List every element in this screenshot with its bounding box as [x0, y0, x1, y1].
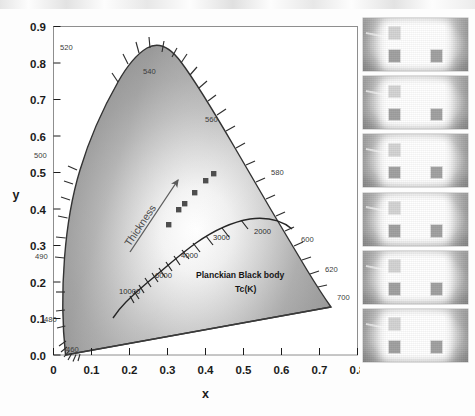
- led-contact-right: [430, 340, 444, 354]
- data-point: [176, 207, 181, 212]
- y-tick-2: 0.2: [30, 277, 46, 289]
- y-tick-labels: 0.0 0.1 0.2 0.3 0.4 0.5 0.6 0.7 0.8 0.9: [30, 21, 47, 362]
- x-tick-2: 0.2: [122, 364, 138, 376]
- temp-label-6000: 6000: [155, 271, 172, 280]
- led-photo-strip: [363, 18, 471, 362]
- wl-label-620: 620: [325, 265, 338, 274]
- led-photo-6: [363, 309, 468, 362]
- led-contact-left: [388, 166, 402, 180]
- wl-label-580: 580: [271, 168, 284, 177]
- data-point: [203, 178, 208, 183]
- y-tick-3: 0.3: [30, 240, 46, 252]
- wl-label-560: 560: [205, 115, 218, 124]
- wl-label-460: 460: [66, 345, 79, 354]
- led-contact-top-left: [388, 26, 402, 40]
- chromaticity-chart-panel: 520 540 560 580 600 620 700 500 490 480 …: [0, 0, 360, 416]
- wl-label-600: 600: [301, 235, 314, 244]
- led-contact-right: [430, 282, 444, 296]
- led-contact-top-left: [388, 143, 402, 157]
- temp-label-4000: 4000: [181, 251, 198, 260]
- data-point: [192, 190, 197, 195]
- led-contact-right: [430, 49, 444, 63]
- led-contact-top-left: [388, 85, 402, 99]
- led-photo-2: [363, 76, 468, 129]
- led-contact-right: [430, 224, 444, 238]
- y-tick-6: 0.6: [30, 131, 46, 143]
- planckian-caption-line1: Planckian Black body: [196, 270, 285, 280]
- y-tick-4: 0.4: [30, 204, 47, 216]
- x-tick-labels: 0 0.1 0.2 0.3 0.4 0.5 0.6 0.7 0.8: [50, 364, 360, 376]
- led-photo-3: [363, 134, 468, 187]
- led-contact-left: [388, 224, 402, 238]
- x-tick-8: 0.8: [350, 364, 361, 376]
- x-axis-title: x: [202, 387, 209, 401]
- led-photo-5: [363, 251, 468, 304]
- x-tick-3: 0.3: [160, 364, 176, 376]
- wl-label-520: 520: [60, 43, 73, 52]
- led-photo-4: [363, 193, 468, 246]
- led-contact-top-left: [388, 259, 402, 273]
- data-point: [211, 171, 216, 176]
- y-tick-0: 0.0: [30, 350, 46, 362]
- led-photo-1: [363, 18, 468, 71]
- wl-label-540: 540: [143, 67, 156, 76]
- x-tick-6: 0.6: [274, 364, 290, 376]
- led-contact-right: [430, 166, 444, 180]
- led-contact-left: [388, 49, 402, 63]
- wl-label-700: 700: [337, 293, 350, 302]
- x-tick-1: 0.1: [84, 364, 101, 376]
- y-axis-title: y: [13, 188, 20, 202]
- temp-label-2000: 2000: [254, 227, 271, 236]
- wl-label-500: 500: [34, 151, 47, 160]
- chromaticity-chart-svg: 520 540 560 580 600 620 700 500 490 480 …: [0, 0, 360, 416]
- temp-label-10000: 10000: [119, 287, 140, 296]
- led-contact-top-left: [388, 317, 402, 331]
- planckian-caption-line2: Tc(K): [235, 284, 256, 294]
- y-tick-5: 0.5: [30, 167, 47, 179]
- led-contact-left: [388, 108, 402, 122]
- data-point: [182, 201, 187, 206]
- led-contact-left: [388, 340, 402, 354]
- led-contact-right: [430, 108, 444, 122]
- figure-root: 520 540 560 580 600 620 700 500 490 480 …: [0, 0, 475, 416]
- led-contact-top-left: [388, 201, 402, 215]
- x-tick-7: 0.7: [312, 364, 328, 376]
- x-tick-4: 0.4: [198, 364, 215, 376]
- y-tick-8: 0.8: [30, 58, 47, 70]
- led-contact-left: [388, 282, 402, 296]
- temp-label-3000: 3000: [213, 233, 230, 242]
- y-tick-7: 0.7: [30, 94, 46, 106]
- x-tick-5: 0.5: [236, 364, 253, 376]
- y-tick-9: 0.9: [30, 21, 46, 33]
- y-tick-1: 0.1: [30, 313, 47, 325]
- wl-label-490: 490: [35, 252, 48, 261]
- data-point: [166, 222, 171, 227]
- x-tick-0: 0: [50, 364, 56, 376]
